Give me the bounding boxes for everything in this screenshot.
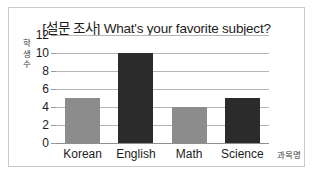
chart-frame: [설문 조사] What's your favorite subject? 학 … — [8, 7, 305, 167]
y-axis-tick-label: 2 — [42, 118, 49, 132]
y-axis-label-char-2: 생 — [20, 49, 33, 60]
y-axis-tick-label: 8 — [42, 64, 49, 78]
y-axis-tick-label: 12 — [36, 28, 49, 42]
chart-title: [설문 조사] What's your favorite subject? — [9, 17, 304, 37]
y-axis-tick — [51, 53, 56, 54]
y-axis-tick — [51, 35, 56, 36]
y-axis-tick — [51, 125, 56, 126]
y-axis-tick-label: 0 — [42, 136, 49, 150]
gridline — [56, 53, 269, 54]
y-axis-label-char-3: 수 — [20, 59, 33, 70]
plot-area: 121086420KoreanEnglishMathScience — [56, 35, 269, 143]
gridline — [56, 35, 269, 36]
bar-korean — [65, 98, 100, 143]
y-axis-tick-label: 10 — [36, 46, 49, 60]
y-axis-tick — [51, 71, 56, 72]
bar-math — [172, 107, 207, 143]
x-axis-tick-label-korean: Korean — [63, 147, 102, 161]
gridline — [56, 71, 269, 72]
y-axis-tick-label: 6 — [42, 82, 49, 96]
bar-science — [225, 98, 260, 143]
y-axis-label-char-1: 학 — [20, 38, 33, 49]
y-axis-label: 학 생 수 — [20, 38, 33, 70]
y-axis-tick-label: 4 — [42, 100, 49, 114]
gridline — [56, 89, 269, 90]
y-axis-tick — [51, 143, 56, 144]
x-axis-tick-label-science: Science — [221, 147, 264, 161]
x-axis-tick-label-english: English — [116, 147, 155, 161]
x-axis-tick-label-math: Math — [176, 147, 203, 161]
x-axis-label: 과목명 — [277, 148, 301, 160]
y-axis-tick — [51, 107, 56, 108]
y-axis-tick — [51, 89, 56, 90]
gridline — [56, 143, 269, 144]
bar-english — [118, 53, 153, 143]
